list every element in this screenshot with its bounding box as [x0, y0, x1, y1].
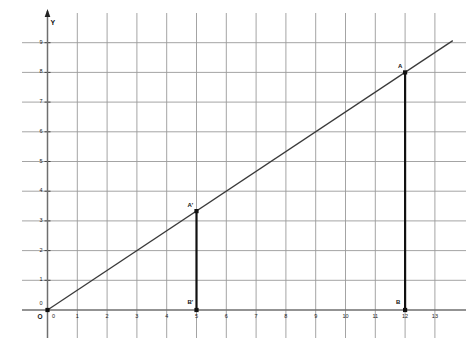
origin-label: O	[38, 314, 43, 321]
x-tick-label-11: 11	[372, 314, 378, 320]
x-tick-label-12: 12	[402, 314, 408, 320]
x-tick-label-9: 9	[314, 314, 317, 320]
grid-horizontal-lines	[22, 43, 466, 281]
point-label-A-prime: A'	[188, 202, 194, 208]
data-point-marker	[403, 308, 407, 312]
x-tick-label-2: 2	[106, 314, 109, 320]
y-tick-label-3: 3	[39, 218, 42, 224]
x-tick-label-5: 5	[195, 314, 198, 320]
x-tick-label-1: 1	[76, 314, 79, 320]
point-label-B-prime: B'	[188, 299, 194, 305]
coordinate-grid-figure: 012345678910111213 0123456789 ABA'B' Y O	[0, 0, 469, 347]
x-tick-label-6: 6	[225, 314, 228, 320]
data-point-marker	[194, 209, 198, 213]
data-line-ray	[48, 41, 453, 310]
x-tick-label-3: 3	[135, 314, 138, 320]
y-tick-label-5: 5	[39, 159, 42, 165]
y-tick-label-9: 9	[39, 40, 42, 46]
y-tick-label-0: 0	[39, 301, 42, 307]
plot-canvas	[0, 0, 469, 347]
y-tick-label-4: 4	[39, 188, 42, 194]
x-tick-label-7: 7	[255, 314, 258, 320]
line-series-ray	[48, 41, 453, 310]
y-tick-label-2: 2	[39, 248, 42, 254]
x-tick-label-13: 13	[432, 314, 438, 320]
x-tick-label-0: 0	[52, 314, 55, 320]
y-axis-arrowhead	[45, 9, 51, 17]
x-tick-label-4: 4	[165, 314, 168, 320]
y-tick-label-1: 1	[39, 278, 42, 284]
point-label-B: B	[396, 299, 400, 305]
x-tick-label-8: 8	[284, 314, 287, 320]
x-tick-label-10: 10	[342, 314, 348, 320]
data-point-marker	[194, 308, 198, 312]
grid-vertical-lines	[77, 13, 435, 338]
origin-point-marker	[45, 308, 49, 312]
y-tick-label-8: 8	[39, 70, 42, 76]
data-point-marker	[403, 70, 407, 74]
point-label-A: A	[398, 63, 402, 69]
y-axis-label: Y	[51, 19, 56, 26]
axes	[22, 9, 466, 338]
y-tick-label-6: 6	[39, 129, 42, 135]
y-tick-label-7: 7	[39, 99, 42, 105]
